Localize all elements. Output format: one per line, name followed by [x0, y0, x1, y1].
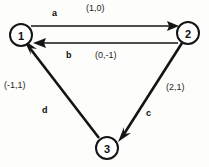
edge-d-weight: (-1,1) [4, 80, 26, 90]
edge-c-label: c [146, 108, 151, 118]
edge-c-arrowhead [118, 127, 131, 142]
edge-b-label: b [66, 50, 72, 60]
node-3-label: 3 [104, 143, 110, 155]
edge-c-weight: (2,1) [166, 82, 185, 92]
node-2-label: 2 [185, 28, 191, 40]
edge-a-weight: (1,0) [86, 3, 105, 13]
edge-a-label: a [52, 8, 57, 18]
edge-d-line [29, 47, 99, 138]
edge-b-weight: (0,-1) [95, 50, 117, 60]
edge-d-label: d [42, 105, 48, 115]
node-1-label: 1 [18, 30, 24, 42]
graph-diagram: 1 2 3 a b c d (1,0) (0,-1) (2,1) (-1,1) [0, 0, 209, 167]
